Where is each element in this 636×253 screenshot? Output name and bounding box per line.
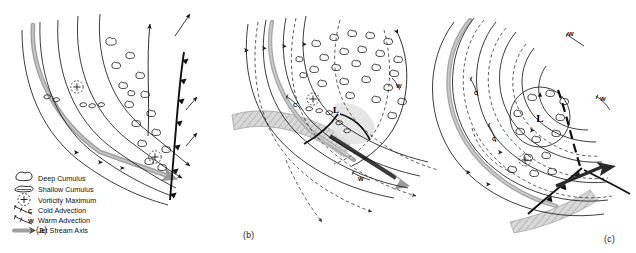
legend-label-deep-cumulus: Deep Cumulus [38,174,86,183]
cold-front-a [170,52,189,200]
cold-advection-label-b-1: C [293,102,298,108]
warm-advection-label-c-2: W [600,96,606,102]
flow-arrowheads-c [466,92,542,186]
warm-advection-label-b-1: W [396,83,402,89]
low-center-c: L [536,112,543,124]
legend-label-warm-advection: Warm Advection [38,216,90,225]
legend-row-deep-cumulus: Deep Cumulus [16,172,86,183]
cold-advection-marker-c-2: C [488,123,497,142]
panel-c: L [432,18,630,244]
deep-cumulus-icon [16,172,32,181]
legend-row-cold-advection: C Cold Advection [14,205,86,215]
streamline-ridge-a [148,24,150,136]
legend-row-warm-advection: W Warm Advection [14,215,90,225]
warm-advection-marker-c-2: W [596,95,610,110]
streamlines-c [432,18,608,216]
cold-advection-label-c-1: C [474,90,479,96]
cold-advection-glyph: C [28,208,33,214]
panel-c-label: (c) [604,234,615,244]
deep-cumulus-field-c [508,90,569,177]
vorticity-maximum-b [307,93,319,105]
jet-band-c [510,190,598,233]
vorticity-maximum-a-1 [71,81,83,93]
legend-row-shallow-cumulus: Shallow Cumulus [15,185,94,194]
vorticity-plus-glyph [21,196,28,203]
warm-advection-marker-c-1: W [566,31,584,46]
warm-advection-marker-b-1: W [392,78,402,90]
panel-b-label: (b) [243,230,255,240]
cold-advection-marker-c-1: C [470,77,479,96]
legend-row-jet-stream-axis: Jet Stream Axis [14,226,88,235]
legend-label-shallow-cumulus: Shallow Cumulus [38,185,94,194]
warm-front-c [584,170,630,194]
cross-front-arrows-a [175,14,197,146]
warm-advection-glyph: W [28,218,34,224]
ridge-streamline-b [352,34,407,166]
synoptic-diagram: (a) Deep Cumulus Shallow Cumulus Vortici… [0,0,636,253]
flow-arrowheads-b [244,42,307,52]
low-center-b: L [333,105,339,115]
legend-label-vorticity-maximum: Vorticity Maximum [38,196,96,205]
shallow-cumulus-icon [15,186,33,192]
advection-labels-c: C C W W [470,31,610,142]
warm-advection-label-c-1: W [568,31,574,37]
panel-b: L C W W (b) [232,16,438,240]
figure-canvas: (a) Deep Cumulus Shallow Cumulus Vortici… [0,0,636,253]
warm-advection-label-b-2: W [358,176,364,182]
legend-label-jet-stream-axis: Jet Stream Axis [38,226,88,235]
legend: Deep Cumulus Shallow Cumulus Vorticity M… [14,172,96,235]
jet-arrowhead-b [386,168,410,190]
cold-advection-label-c-2: C [492,136,497,142]
occluded-front-c [558,90,580,166]
legend-label-cold-advection: Cold Advection [38,206,86,215]
legend-row-vorticity-maximum: Vorticity Maximum [18,194,96,206]
